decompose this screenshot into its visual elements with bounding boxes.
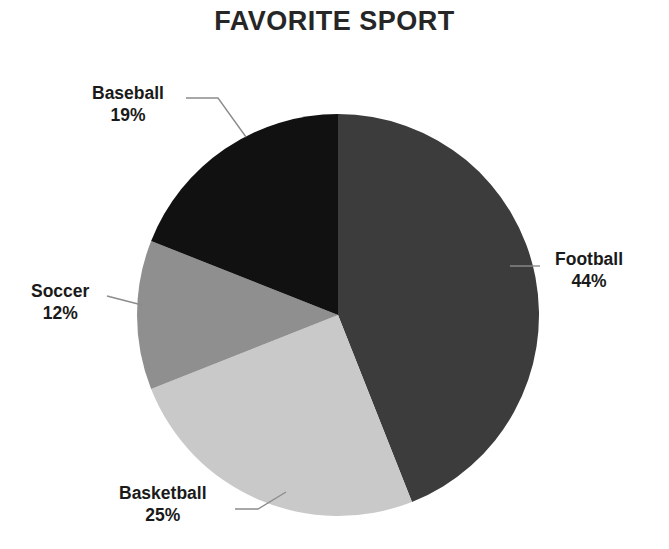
slice-label-soccer-name: Soccer	[31, 281, 89, 303]
slice-label-soccer: Soccer 12%	[31, 281, 89, 325]
slice-label-basketball: Basketball 25%	[119, 483, 207, 527]
slice-label-baseball-name: Baseball	[92, 83, 164, 105]
slice-label-basketball-name: Basketball	[119, 483, 207, 505]
leader-line-soccer	[107, 296, 142, 305]
leader-line-baseball	[186, 98, 246, 137]
pie-chart-figure: FAVORITE SPORT Football 44% Baseball 19%…	[0, 0, 669, 549]
slice-label-soccer-value: 12%	[31, 303, 89, 325]
pie-slices-group	[137, 114, 539, 516]
slice-label-football-value: 44%	[555, 271, 623, 293]
slice-label-baseball: Baseball 19%	[92, 83, 164, 127]
slice-label-baseball-value: 19%	[92, 105, 164, 127]
slice-label-basketball-value: 25%	[119, 505, 207, 527]
slice-label-football: Football 44%	[555, 249, 623, 293]
slice-label-football-name: Football	[555, 249, 623, 271]
